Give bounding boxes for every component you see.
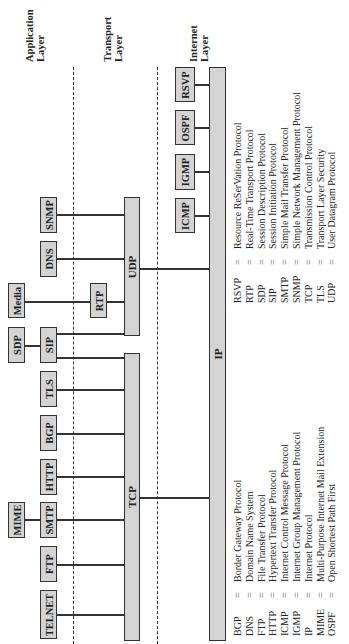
legend-abbr: FTP — [256, 598, 268, 636]
dns-box: DNS — [40, 241, 57, 277]
legend-abbr: ICMP — [279, 598, 291, 636]
ip-label: IP — [212, 349, 224, 360]
http-label: HTTP — [43, 463, 54, 492]
rsvp-box: RSVP — [175, 67, 195, 102]
legend-abbr: RSVP — [232, 265, 244, 303]
sdp-label: SDP — [11, 335, 22, 355]
rtp-udp-line — [107, 301, 124, 303]
legend-name: Domain Name System — [244, 491, 256, 582]
legend-row: RTP=Real-Time Transport Protocol — [244, 92, 256, 303]
legend-name: Transmission Control Protocol — [303, 126, 315, 249]
legend-eq: = — [315, 249, 327, 265]
legend-row: SIP=Session Initiation Protocol — [267, 92, 279, 303]
legend-name: Hypertext Transfer Protocol — [267, 470, 279, 582]
legend-abbr: SNMP — [291, 265, 303, 303]
legend-name: Simple Mail Transfer Protocol — [279, 127, 291, 249]
bgp-label: BGP — [43, 422, 54, 444]
media-label: Media — [11, 286, 22, 315]
legend-eq: = — [326, 582, 338, 598]
legend-abbr: IP — [303, 598, 315, 636]
smtp-box: SMTP — [40, 502, 57, 538]
media-box: Media — [8, 283, 25, 318]
legend-eq: = — [291, 249, 303, 265]
ftp-label: FTP — [43, 554, 54, 574]
http-box: HTTP — [40, 459, 57, 495]
legend-row: HTTP=Hypertext Transfer Protocol — [267, 427, 279, 636]
legend-eq: = — [232, 582, 244, 598]
legend-name: Resource ReSerVation Protocol — [232, 122, 244, 249]
legend-abbr: SIP — [267, 265, 279, 303]
legend-row: FTP=File Transfer Protocol — [256, 427, 268, 636]
rtp-label: RTP — [93, 290, 104, 311]
ip-bar: IP — [209, 67, 226, 641]
igmp-label: IGMP — [180, 158, 191, 187]
legend-name: Open Shortest Path First — [326, 484, 338, 582]
legend-row: ICMP=Internet Control Message Protocol — [279, 427, 291, 636]
udp-label: UDP — [126, 255, 138, 278]
legend-name: Internet Protocol — [303, 515, 315, 582]
legend-abbr: SDP — [256, 265, 268, 303]
snmp-label: SNMP — [43, 200, 54, 230]
legend-eq: = — [267, 582, 279, 598]
legend-row: SNMP=Simple Network Management Protocol — [291, 92, 303, 303]
icmp-ip-line — [195, 215, 210, 217]
igmp-ip-line — [195, 171, 210, 173]
legend-eq: = — [279, 582, 291, 598]
legend-row: RSVP=Resource ReSerVation Protocol — [232, 92, 244, 303]
legend-row: TCP=Transmission Control Protocol — [303, 92, 315, 303]
icmp-box: ICMP — [175, 198, 195, 233]
legend-eq: = — [291, 582, 303, 598]
ospf-label: OSPF — [180, 114, 191, 141]
legend-name: Simple Network Management Protocol — [291, 92, 303, 249]
legend-eq: = — [303, 249, 315, 265]
legend-row: MIME=Multi-Purpose Internet Mail Extensi… — [315, 427, 327, 636]
legend-eq: = — [232, 249, 244, 265]
smtp-tcp-line — [57, 519, 124, 521]
igmp-box: IGMP — [175, 154, 195, 190]
sip-box: SIP — [40, 327, 57, 363]
legend-row: IP=Internet Protocol — [303, 427, 315, 636]
dns-label: DNS — [43, 248, 54, 269]
legend-abbr: MIME — [315, 598, 327, 636]
sdp-box: SDP — [8, 327, 25, 363]
rsvp-ip-line — [195, 84, 210, 86]
tls-label: TLS — [43, 379, 54, 399]
ftp-tcp-line — [57, 564, 124, 566]
legend-abbr: TLS — [315, 265, 327, 303]
snmp-udp-line — [57, 214, 124, 216]
mime-smtp-line — [24, 519, 40, 521]
legend-eq: = — [267, 249, 279, 265]
legend-row: SDP=Session Description Protocol — [256, 92, 268, 303]
sip-udp-line — [57, 333, 124, 335]
protocol-stack-diagram: Application Layer Transport Layer Intern… — [0, 0, 349, 644]
legend-abbr: TCP — [303, 265, 315, 303]
icmp-label: ICMP — [180, 202, 191, 230]
udp-bar: UDP — [124, 197, 140, 336]
tcp-label: TCP — [126, 486, 138, 508]
legend-name: Real-Time Transport Protocol — [244, 129, 256, 249]
legend-row: DNS=Domain Name System — [244, 427, 256, 636]
ospf-ip-line — [195, 127, 210, 129]
legend-row: BGP=Border Gateway Protocol — [232, 427, 244, 636]
legend-row: IGMP=Internet Group Management Protocol — [291, 427, 303, 636]
tls-tcp-line — [57, 389, 124, 391]
legend-abbr: SMTP — [279, 265, 291, 303]
snmp-box: SNMP — [40, 197, 57, 233]
tls-box: TLS — [40, 371, 57, 407]
legend-abbr: UDP — [326, 265, 338, 303]
legend-row: OSPF=Open Shortest Path First — [326, 427, 338, 636]
transport-layer-label: Transport Layer — [102, 2, 124, 62]
tcp-bar: TCP — [124, 353, 140, 641]
legend-abbr: DNS — [244, 598, 256, 636]
internet-layer-label: Internet Layer — [188, 2, 210, 62]
legend-row: SMTP=Simple Mail Transfer Protocol — [279, 92, 291, 303]
legend-name: Transport Layer Security — [315, 149, 327, 249]
legend-row: UDP=User Datagram Protocol — [326, 92, 338, 303]
app-transport-divider — [73, 67, 74, 644]
legend-name: File Transfer Protocol — [256, 494, 268, 582]
smtp-label: SMTP — [43, 505, 54, 534]
legend-left: BGP=Border Gateway Protocol DNS=Domain N… — [232, 427, 338, 636]
http-tcp-line — [57, 476, 124, 478]
telnet-tcp-line — [57, 614, 124, 616]
legend-name: Internet Group Management Protocol — [291, 432, 303, 582]
